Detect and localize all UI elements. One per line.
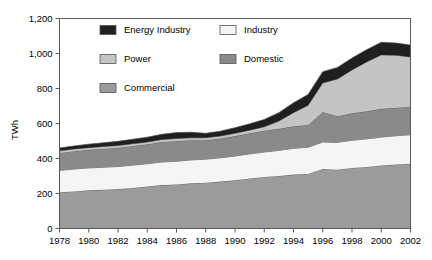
x-tick-label: 2002 (400, 235, 421, 246)
x-tick-label: 1992 (254, 235, 275, 246)
x-tick-label: 1990 (224, 235, 245, 246)
y-tick-label: 1,200 (29, 13, 53, 24)
y-tick-label: 800 (37, 83, 53, 94)
legend-swatch-power (100, 55, 116, 64)
x-tick-label: 1994 (283, 235, 304, 246)
chart-figure: 02004006008001,0001,200 1978198019821984… (0, 0, 432, 260)
y-tick-label: 0 (47, 223, 52, 234)
legend-swatch-energy-industry (100, 26, 116, 35)
legend-label-commercial: Commercial (124, 82, 175, 93)
y-tick-label: 600 (37, 118, 53, 129)
x-tick-label: 1984 (137, 235, 158, 246)
x-tick-label: 2000 (371, 235, 392, 246)
legend-label-power: Power (124, 53, 151, 64)
legend-swatch-industry (220, 26, 236, 35)
y-tick-label: 1,000 (29, 48, 53, 59)
x-tick-label: 1978 (49, 235, 70, 246)
legend-swatch-commercial (100, 84, 116, 93)
legend-label-industry: Industry (244, 24, 278, 35)
legend-label-domestic: Domestic (244, 53, 284, 64)
y-tick-label: 400 (37, 153, 53, 164)
legend-swatch-domestic (220, 55, 236, 64)
legend-label-energy-industry: Energy Industry (124, 24, 191, 35)
x-tick-label: 1986 (166, 235, 187, 246)
x-tick-label: 1982 (107, 235, 128, 246)
x-tick-label: 1996 (312, 235, 333, 246)
x-tick-label: 1998 (341, 235, 362, 246)
stacked-area-chart: 02004006008001,0001,200 1978198019821984… (0, 0, 432, 260)
y-axis-title: TWh (9, 120, 20, 140)
x-tick-label: 1988 (195, 235, 216, 246)
x-tick-label: 1980 (78, 235, 99, 246)
y-tick-label: 200 (37, 188, 53, 199)
